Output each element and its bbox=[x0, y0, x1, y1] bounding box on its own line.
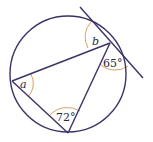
label-72: 72° bbox=[56, 111, 76, 124]
label-b: b bbox=[92, 35, 99, 48]
diagram: b 65° a 72° bbox=[0, 0, 153, 142]
label-a: a bbox=[20, 78, 27, 91]
angle-arc-b bbox=[85, 22, 91, 48]
label-65: 65° bbox=[103, 57, 123, 70]
circle-theorem-figure: b 65° a 72° bbox=[0, 0, 153, 142]
angle-arc-a bbox=[28, 74, 33, 97]
